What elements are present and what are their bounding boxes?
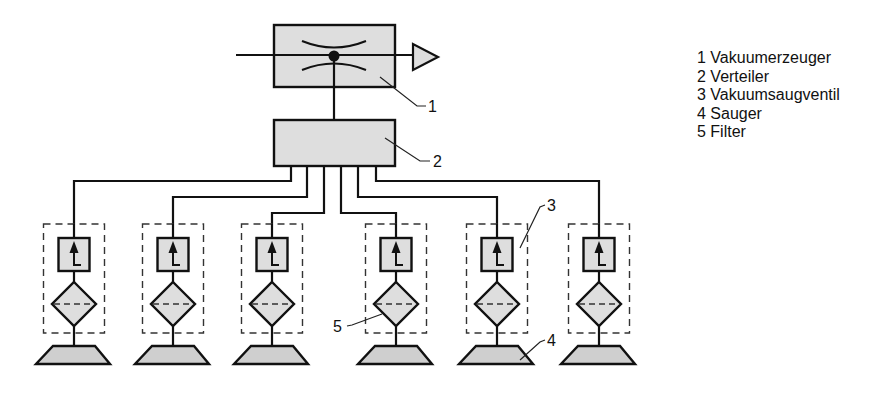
callout-3-label: 3 xyxy=(547,197,556,214)
distributor xyxy=(274,120,395,166)
vacuum-generator xyxy=(236,25,438,120)
branch-6 xyxy=(561,224,635,364)
legend-item-4: 4 Sauger xyxy=(697,105,840,124)
legend-item-3: 3 Vakuumsaugventil xyxy=(697,86,840,105)
legend-item-2: 2 Verteiler xyxy=(697,68,840,87)
callout-3: 3 xyxy=(520,197,556,248)
callout-2-label: 2 xyxy=(433,153,442,170)
legend-item-5: 5 Filter xyxy=(697,123,840,142)
exhaust-triangle-icon xyxy=(413,44,438,70)
callout-5: 5 xyxy=(333,314,382,335)
legend: 1 Vakuumerzeuger 2 Verteiler 3 Vakuumsau… xyxy=(697,49,840,142)
branch-3 xyxy=(234,224,308,364)
callout-1-label: 1 xyxy=(428,98,437,115)
branch-4 xyxy=(358,224,432,364)
distribution-lines xyxy=(74,166,599,224)
legend-item-1: 1 Vakuumerzeuger xyxy=(697,49,840,68)
branch-1 xyxy=(36,224,110,364)
callout-5-label: 5 xyxy=(333,318,342,335)
callout-4: 4 xyxy=(520,332,556,360)
callout-4-label: 4 xyxy=(547,332,556,349)
branch-2 xyxy=(135,224,209,364)
